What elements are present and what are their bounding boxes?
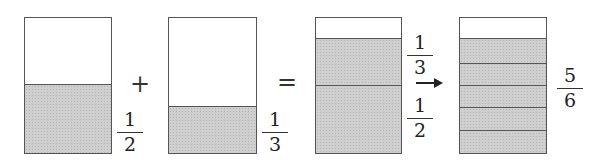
numerator: 1 (262, 110, 288, 129)
shaded-third (169, 106, 256, 153)
bar-sum (315, 17, 402, 154)
plus-sign: + (130, 72, 150, 96)
denominator: 3 (407, 58, 433, 77)
bar-one-half (24, 17, 112, 154)
fraction-one-half: 1 2 (117, 110, 143, 154)
fraction-one-half-part: 1 2 (407, 96, 433, 140)
fraction-five-sixths: 5 6 (557, 66, 583, 110)
numerator: 5 (557, 66, 583, 85)
denominator: 2 (407, 121, 433, 140)
bar-one-third (168, 17, 257, 154)
divider-line (460, 85, 546, 86)
divider-line (460, 63, 546, 64)
shaded-result (460, 38, 546, 153)
bar-result (459, 17, 547, 154)
divider-line (316, 85, 401, 86)
fraction-one-third-part: 1 3 (407, 33, 433, 77)
numerator: 1 (407, 33, 433, 52)
equals-sign: = (277, 70, 297, 94)
numerator: 1 (117, 110, 143, 129)
fraction-one-third: 1 3 (262, 110, 288, 154)
denominator: 2 (117, 135, 143, 154)
divider-line (460, 130, 546, 131)
denominator: 6 (557, 91, 583, 110)
divider-line (460, 107, 546, 108)
shaded-half (25, 84, 111, 153)
numerator: 1 (407, 96, 433, 115)
shaded-sum (316, 38, 401, 153)
right-arrow-icon (416, 77, 444, 89)
denominator: 3 (262, 135, 288, 154)
